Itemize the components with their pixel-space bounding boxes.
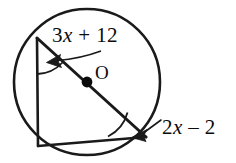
- angle-label-top-left: 3x + 12: [52, 25, 118, 46]
- angle-label-bottom-right-coefficient: 2: [162, 115, 173, 139]
- angle-label-bottom-right-operator: –: [183, 115, 205, 139]
- angle-label-bottom-right-variable: x: [173, 115, 183, 139]
- angle-label-top-left-operator: +: [73, 23, 97, 47]
- angle-label-top-left-coefficient: 3: [52, 23, 63, 47]
- angle-label-bottom-right-constant: 2: [205, 115, 216, 139]
- diameter-segment: [37, 38, 146, 137]
- angle-label-top-left-constant: 12: [96, 23, 118, 47]
- angle-label-bottom-right: 2x – 2: [162, 117, 216, 138]
- angle-label-top-left-variable: x: [63, 23, 73, 47]
- center-point-label: O: [95, 63, 109, 82]
- leader-line-top: [58, 51, 102, 61]
- center-point-dot: [82, 77, 93, 88]
- geometry-figure: 3x + 12 2x – 2 O: [0, 0, 236, 163]
- triangle-left-leg: [37, 38, 38, 146]
